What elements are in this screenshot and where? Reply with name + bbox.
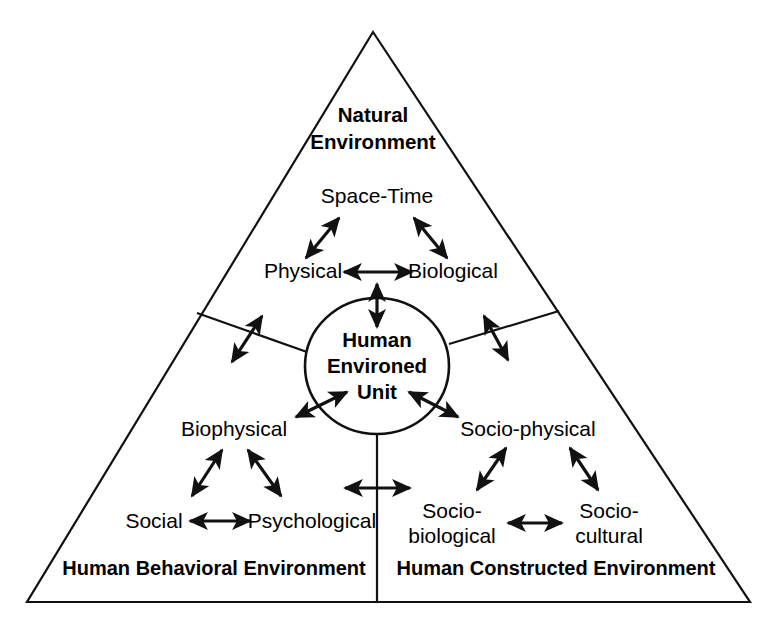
arrow-spacetime-physical	[306, 218, 339, 258]
node-space-time: Space-Time	[321, 184, 433, 207]
arrow-biophysical-social	[192, 450, 222, 496]
arrow-spacetime-biological	[414, 218, 447, 258]
node-physical: Physical	[264, 259, 342, 282]
diagram-root: Natural Environment Space-Time Physical …	[0, 0, 768, 630]
center-label-line3: Unit	[357, 380, 397, 403]
node-socio-cultural-line2: cultural	[575, 524, 643, 547]
arrow-natural-behavioral	[232, 316, 262, 362]
arrow-natural-constructed	[484, 316, 508, 360]
base-title-constructed: Human Constructed Environment	[397, 557, 716, 579]
node-psychological: Psychological	[248, 509, 376, 532]
node-biological: Biological	[408, 259, 498, 282]
arrow-sociophysical-sociobiological	[477, 448, 506, 490]
node-socio-biological-line1: Socio-	[422, 499, 482, 522]
center-label-line1: Human	[342, 328, 411, 351]
node-socio-cultural-line1: Socio-	[579, 499, 639, 522]
node-biophysical: Biophysical	[181, 417, 287, 440]
node-socio-biological-line2: biological	[408, 524, 496, 547]
node-social: Social	[125, 509, 182, 532]
zone-title-natural-line1: Natural	[338, 103, 409, 126]
arrow-sociophysical-sociocultural	[570, 448, 598, 490]
arrow-biophysical-psychological	[248, 450, 281, 496]
center-label-line2: Environed	[327, 354, 427, 377]
node-socio-physical: Socio-physical	[460, 417, 595, 440]
base-title-behavioral: Human Behavioral Environment	[62, 557, 366, 579]
human-environed-unit-diagram: Natural Environment Space-Time Physical …	[0, 0, 768, 630]
zone-title-natural-line2: Environment	[310, 130, 435, 153]
divider-natural-constructed	[449, 311, 559, 344]
